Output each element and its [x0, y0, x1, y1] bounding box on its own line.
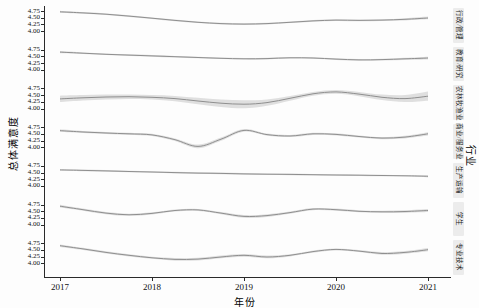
x-tick-label: 2018: [132, 282, 172, 292]
facet-strip: 专业技术: [453, 240, 464, 275]
x-tick-label: 2019: [224, 282, 264, 292]
x-tick-label: 2017: [40, 282, 80, 292]
x-tick-mark: [336, 278, 337, 281]
x-tick-label: 2020: [316, 282, 356, 292]
x-tick-mark: [60, 278, 61, 281]
facet-strip-label: 专业技术: [455, 244, 462, 272]
x-tick-label: 2021: [408, 282, 448, 292]
x-tick-mark: [152, 278, 153, 281]
x-tick-mark: [428, 278, 429, 281]
x-tick-mark: [244, 278, 245, 281]
